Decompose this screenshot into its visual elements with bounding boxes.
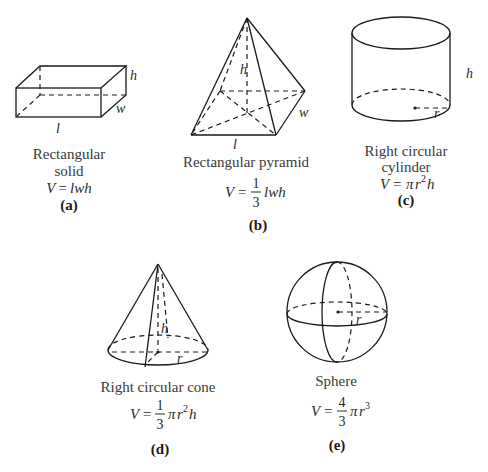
figure-right-circular-cylinder: h r Right circular cylinder V = π r 2 h … xyxy=(352,17,473,209)
geometric-solids-diagram: h w l Rectangular solid V=lwh (a) h w l … xyxy=(0,0,488,472)
svg-text:=: = xyxy=(393,176,401,192)
caption-line-1: Right circular xyxy=(365,143,448,159)
length-label: l xyxy=(56,121,60,136)
sphere-drawing xyxy=(287,262,387,362)
length-label: l xyxy=(233,137,237,152)
figure-tag: (a) xyxy=(60,197,78,214)
volume-formula: V = 4 3 π r 3 xyxy=(311,395,370,429)
radius-label: r xyxy=(434,106,440,121)
figure-sphere: r Sphere V = 4 3 π r 3 (e) xyxy=(287,262,387,454)
svg-text:2: 2 xyxy=(183,403,188,414)
svg-text:π: π xyxy=(350,403,358,419)
svg-text:4: 4 xyxy=(339,395,346,410)
svg-text:3: 3 xyxy=(157,417,164,432)
radius-label: r xyxy=(356,312,362,327)
height-label: h xyxy=(240,62,247,77)
svg-text:=: = xyxy=(238,184,246,200)
figure-tag: (d) xyxy=(151,441,169,458)
svg-text:π: π xyxy=(168,406,176,422)
cone-drawing xyxy=(108,264,208,367)
figure-tag: (b) xyxy=(249,217,267,234)
svg-text:V: V xyxy=(225,184,236,200)
caption-line-2: solid xyxy=(54,163,84,179)
caption-line-1: Rectangular pyramid xyxy=(183,154,310,170)
figure-tag: (c) xyxy=(398,192,415,209)
volume-formula: V = 1 3 lwh xyxy=(225,176,286,210)
caption-line-1: Sphere xyxy=(315,373,357,389)
radius-label: r xyxy=(177,351,183,366)
svg-text:1: 1 xyxy=(157,398,164,413)
svg-text:V: V xyxy=(130,406,141,422)
figure-right-circular-cone: h r Right circular cone V = 1 3 π r 2 h … xyxy=(101,264,216,458)
volume-formula: V = 1 3 π r 2 h xyxy=(130,398,197,432)
svg-text:3: 3 xyxy=(365,400,370,411)
height-label: h xyxy=(161,321,168,336)
width-label: w xyxy=(116,101,126,116)
svg-text:=: = xyxy=(143,406,151,422)
svg-text:2: 2 xyxy=(421,173,426,184)
svg-text:3: 3 xyxy=(339,414,346,429)
width-label: w xyxy=(299,105,309,120)
rectangular-solid-drawing xyxy=(16,66,126,117)
svg-text:1: 1 xyxy=(253,176,260,191)
figure-tag: (e) xyxy=(329,437,346,454)
rectangular-pyramid-drawing xyxy=(191,18,305,135)
svg-text:π: π xyxy=(406,176,414,192)
svg-text:=: = xyxy=(324,403,332,419)
svg-text:V: V xyxy=(311,403,322,419)
svg-text:V: V xyxy=(380,176,391,192)
figure-rectangular-solid: h w l Rectangular solid V=lwh (a) xyxy=(16,66,137,214)
figure-rectangular-pyramid: h w l Rectangular pyramid V = 1 3 lwh (b… xyxy=(183,18,310,234)
svg-text:lwh: lwh xyxy=(264,184,286,200)
height-label: h xyxy=(130,68,137,83)
height-label: h xyxy=(466,66,473,81)
caption-line-1: Rectangular xyxy=(33,146,105,162)
svg-text:3: 3 xyxy=(253,195,260,210)
caption-line-1: Right circular cone xyxy=(101,379,216,395)
center-point xyxy=(156,350,159,353)
svg-text:h: h xyxy=(189,406,197,422)
volume-formula: V=lwh xyxy=(46,180,91,196)
svg-text:h: h xyxy=(427,176,435,192)
volume-formula: V = π r 2 h xyxy=(380,173,435,192)
